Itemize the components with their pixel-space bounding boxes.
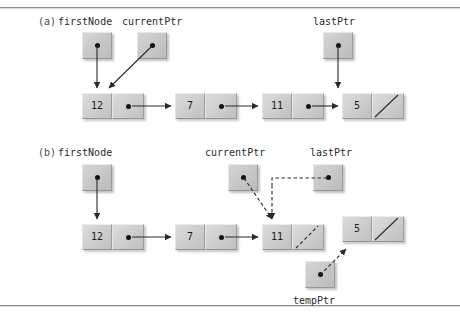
pointer-box-firstnode-b [82,164,112,191]
list-node-b-0: 12 [82,224,144,250]
node-data-cell: 11 [262,224,292,250]
node-value: 5 [354,101,360,111]
pointer-box-currentptr-b [228,164,258,191]
label-lastptr-b: lastPtr [310,147,352,158]
link-dot-icon [126,104,131,109]
node-crossed-cell [292,224,324,250]
node-value: 12 [91,232,103,242]
link-dot-icon [306,104,311,109]
node-null-cell [372,93,404,119]
list-node-a-3: 5 [342,93,404,119]
pointer-box-lastptr-a [323,32,353,59]
node-null-cell [372,216,404,242]
pointer-box-lastptr-b [313,164,343,191]
pointer-dot-icon [336,43,341,48]
link-dot-icon [219,235,224,240]
label-tempptr-b: tempPtr [293,295,335,306]
node-link-cell [205,224,237,250]
list-node-a-0: 12 [82,93,144,119]
top-rule-shadow [0,8,460,9]
list-node-b-3: 5 [342,216,404,242]
pointer-box-currentptr-a [137,32,167,59]
node-link-cell [112,93,144,119]
label-firstnode-a: firstNode [58,16,112,27]
pointer-dot-icon [150,43,155,48]
part-label-a: (a) [38,16,56,27]
node-data-cell: 5 [342,93,372,119]
pointer-dot-icon [318,272,323,277]
linked-list-figure: (a) firstNode currentPtr lastPtr 12 7 11 [0,0,460,317]
pointer-box-firstnode-a [82,32,112,59]
node-data-cell: 11 [262,93,292,119]
list-node-b-2: 11 [262,224,324,250]
pointer-dot-icon [326,175,331,180]
node-link-cell [205,93,237,119]
list-node-b-1: 7 [175,224,237,250]
label-currentptr-b: currentPtr [205,147,265,158]
node-link-cell [112,224,144,250]
label-lastptr-a: lastPtr [313,16,355,27]
bottom-rule-shadow [0,306,460,307]
link-dot-icon [219,104,224,109]
node-data-cell: 12 [82,93,112,119]
node-value: 7 [187,101,193,111]
node-value: 5 [354,224,360,234]
list-node-a-2: 11 [262,93,324,119]
node-data-cell: 7 [175,93,205,119]
node-value: 7 [187,232,193,242]
node-data-cell: 7 [175,224,205,250]
list-node-a-1: 7 [175,93,237,119]
link-dot-icon [126,235,131,240]
node-value: 11 [271,101,283,111]
node-value: 12 [91,101,103,111]
pointer-dot-icon [241,175,246,180]
node-data-cell: 5 [342,216,372,242]
part-label-b: (b) [38,147,56,158]
pointer-dot-icon [95,175,100,180]
label-firstnode-b: firstNode [58,147,112,158]
node-value: 11 [271,232,283,242]
node-link-cell [292,93,324,119]
pointer-dot-icon [95,43,100,48]
connector-overlay [0,0,460,317]
pointer-box-tempptr-b [305,261,335,288]
node-data-cell: 12 [82,224,112,250]
label-currentptr-a: currentPtr [122,16,182,27]
